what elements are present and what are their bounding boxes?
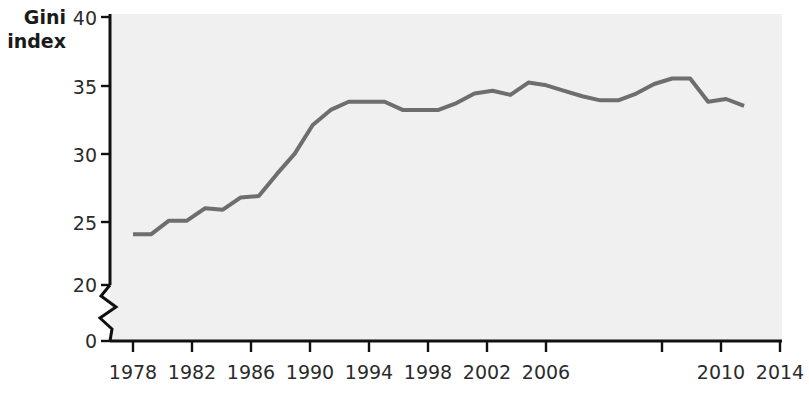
y-tick-label-30: 30 — [73, 144, 97, 166]
x-tick-label-2014: 2014 — [756, 361, 804, 383]
y-tick-label-25: 25 — [73, 212, 97, 234]
plot-area-background — [110, 14, 782, 341]
y-tick-label-35: 35 — [73, 76, 97, 98]
y-tick-label-40: 40 — [73, 7, 97, 29]
x-tick-label-2010: 2010 — [697, 361, 745, 383]
x-tick-label-1998: 1998 — [404, 361, 452, 383]
y-tick-label-20: 20 — [73, 274, 97, 296]
x-tick-label-1982: 1982 — [168, 361, 216, 383]
x-tick-label-2006: 2006 — [522, 361, 570, 383]
x-tick-label-1986: 1986 — [227, 361, 275, 383]
x-tick-label-1990: 1990 — [286, 361, 334, 383]
x-tick-label-1978: 1978 — [109, 361, 157, 383]
y-axis-title-line1: Gini — [24, 6, 66, 28]
x-tick-label-1994: 1994 — [345, 361, 393, 383]
y-axis-title-line2: index — [7, 30, 66, 52]
x-tick-label-2002: 2002 — [463, 361, 511, 383]
gini-index-line-chart: Gini index 40 35 30 25 20 0 1978 — [0, 0, 809, 401]
y-tick-label-0: 0 — [85, 330, 97, 352]
chart-canvas: Gini index 40 35 30 25 20 0 1978 — [0, 0, 809, 401]
